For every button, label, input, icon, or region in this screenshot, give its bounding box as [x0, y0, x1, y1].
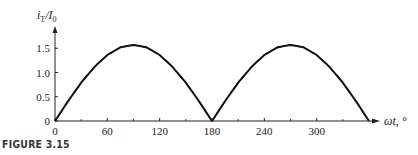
x-axis-arrow-icon	[372, 119, 380, 124]
x-tick-label: 240	[256, 125, 273, 137]
x-tick-label: 0	[52, 125, 58, 137]
x-tick-label: 60	[102, 125, 114, 137]
y-tick-label: 0	[45, 115, 51, 127]
x-axis-title: ωt, °	[384, 114, 407, 128]
x-tick-label: 300	[308, 125, 325, 137]
y-tick-label: 0.5	[36, 91, 50, 103]
x-tick-label: 120	[151, 125, 168, 137]
chart: 00.51.01.5 060120180240300 iT/I0 ωt, °	[0, 0, 418, 155]
x-tick-label: 180	[204, 125, 221, 137]
y-tick-label: 1.0	[36, 67, 50, 79]
y-tick-label: 1.5	[36, 42, 50, 54]
figure-label: FIGURE 3.15	[2, 138, 70, 151]
y-axis-title: iT/I0	[37, 8, 57, 24]
y-axis-arrow-icon	[53, 26, 58, 33]
data-line	[55, 45, 369, 121]
